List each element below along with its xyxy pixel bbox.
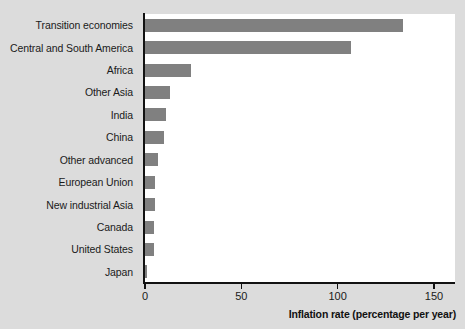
bar-series — [145, 14, 455, 283]
y-axis-tick-label: New industrial Asia — [0, 193, 139, 215]
x-axis-tick-label: 0 — [142, 290, 148, 302]
bar-row — [145, 216, 455, 238]
y-axis-tick-label: Africa — [0, 59, 139, 81]
x-axis-title: Inflation rate (percentage per year) — [0, 308, 456, 320]
x-axis-tick-label: 50 — [235, 290, 247, 302]
bar-row — [145, 171, 455, 193]
y-axis-line — [143, 13, 145, 284]
x-axis-tick-mark — [433, 283, 435, 289]
bar-row — [145, 104, 455, 126]
y-axis-category-labels: Transition economies Central and South A… — [0, 14, 139, 283]
bar-row — [145, 14, 455, 36]
y-axis-tick-label: United States — [0, 238, 139, 260]
bar — [145, 108, 166, 121]
y-axis-tick-label: Other Asia — [0, 81, 139, 103]
y-axis-tick-label: China — [0, 126, 139, 148]
bar — [145, 41, 351, 54]
bar — [145, 19, 403, 32]
bar-row — [145, 238, 455, 260]
bar — [145, 176, 155, 189]
bar-row — [145, 81, 455, 103]
bar — [145, 131, 164, 144]
y-axis-tick-label: Japan — [0, 261, 139, 283]
bar-row — [145, 261, 455, 283]
bar-row — [145, 126, 455, 148]
x-axis-tick-mark — [241, 283, 243, 289]
x-axis-tick-mark — [337, 283, 339, 289]
y-axis-tick-label: Transition economies — [0, 14, 139, 36]
y-axis-tick-label: Canada — [0, 216, 139, 238]
y-axis-tick-label: Other advanced — [0, 149, 139, 171]
bar-row — [145, 149, 455, 171]
bar-row — [145, 193, 455, 215]
bar — [145, 86, 170, 99]
x-axis-tick-label: 150 — [425, 290, 443, 302]
bar — [145, 265, 147, 278]
y-axis-tick-label: Central and South America — [0, 36, 139, 58]
y-axis-tick-label: India — [0, 104, 139, 126]
bar-row — [145, 59, 455, 81]
bar — [145, 221, 154, 234]
bar — [145, 243, 154, 256]
x-axis-tick-mark — [144, 283, 146, 289]
y-axis-tick-label: European Union — [0, 171, 139, 193]
bar — [145, 153, 158, 166]
x-axis-line — [143, 282, 455, 284]
inflation-rate-bar-chart: Transition economies Central and South A… — [0, 0, 465, 329]
bar — [145, 198, 155, 211]
bar-row — [145, 36, 455, 58]
x-axis-tick-label: 100 — [328, 290, 346, 302]
bar — [145, 64, 191, 77]
